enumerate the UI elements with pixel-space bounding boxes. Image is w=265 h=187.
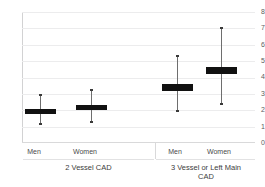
group-divider-tick [155,143,156,159]
whisker-cap-lower [90,121,94,123]
whisker-cap-upper [39,94,43,96]
box-body [162,84,193,91]
whisker-cap-lower [39,123,43,125]
whisker-cap-lower [220,103,224,105]
whisker-cap-lower [176,110,180,112]
whisker-cap-upper [176,55,180,57]
box-body [76,105,107,110]
group-label-1: 2 Vessel CAD [23,163,154,172]
group-separator-line-2 [156,159,255,160]
category-label-g1-women: Women [65,148,105,156]
box-body [206,67,237,74]
category-label-g2-women: Women [199,148,239,156]
box-whisker-chart: 8 7 6 5 4 3 2 1 0 Men Women Men Women 2 … [0,0,265,187]
category-label-g2-men: Men [155,148,195,156]
gridline-2 [22,110,255,111]
category-label-g1-men: Men [14,148,54,156]
gridline-8 [22,12,255,13]
group-separator-line-1 [23,159,154,160]
whisker-line [221,27,223,105]
whisker-cap-upper [90,89,94,91]
plot-area [22,12,255,143]
gridline-0 [22,142,255,143]
group-label-2-line1: 3 Vessel or Left Main [150,163,262,172]
group-label-2-line2: CAD [150,172,262,181]
whisker-cap-upper [220,27,224,29]
box-body [25,109,56,114]
gridline-1 [22,127,255,128]
